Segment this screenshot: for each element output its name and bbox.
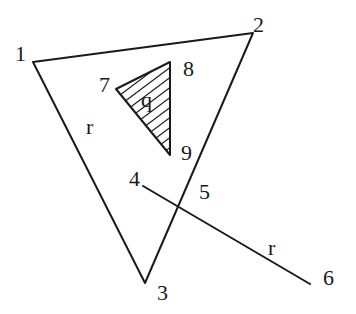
vertex-label-7: 7 — [99, 72, 110, 97]
vertex-label-1: 1 — [15, 41, 26, 66]
vertex-label-2: 2 — [253, 12, 264, 37]
vertex-label-5: 5 — [199, 179, 210, 204]
segment-4-6 — [143, 186, 310, 284]
vertex-label-3: 3 — [157, 280, 168, 305]
outer-triangle — [33, 33, 253, 283]
region-label-r: r — [86, 114, 94, 139]
geometry-diagram: 1 2 3 7 8 9 4 5 6 r q r — [0, 0, 356, 314]
inner-triangle-hatching — [100, 40, 180, 220]
vertex-label-8: 8 — [183, 56, 194, 81]
vertex-label-9: 9 — [181, 140, 192, 165]
vertex-label-4: 4 — [129, 166, 140, 191]
vertex-label-6: 6 — [323, 265, 334, 290]
segment-label-r: r — [268, 235, 276, 260]
region-label-q: q — [141, 87, 152, 112]
